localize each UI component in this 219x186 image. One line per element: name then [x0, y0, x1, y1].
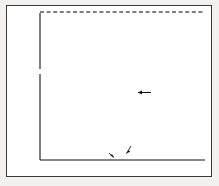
precipitation-arrowhead	[138, 91, 142, 95]
figure-frame	[6, 5, 212, 177]
annotation-leader-lines	[7, 6, 213, 178]
climate-hydrograph-figure	[0, 0, 219, 186]
